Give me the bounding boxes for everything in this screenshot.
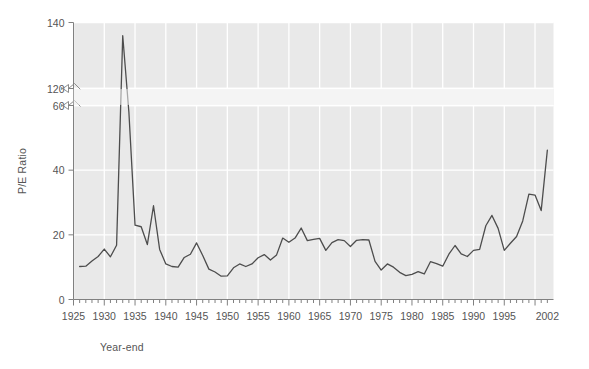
y-tick-label: 40 — [53, 164, 65, 176]
x-axis-title: Year-end — [100, 341, 144, 353]
x-tick-label: 1945 — [185, 310, 209, 322]
x-tick-label: 1950 — [216, 310, 240, 322]
plot-background — [74, 23, 554, 300]
x-tick-label: 1990 — [462, 310, 486, 322]
x-tick-label: 1985 — [431, 310, 455, 322]
chart-svg: 0204060120140192519301935194019451950195… — [0, 0, 589, 369]
x-tick-label: 1955 — [246, 310, 270, 322]
x-tick-label: 1960 — [277, 310, 301, 322]
y-tick-label: 140 — [47, 17, 65, 29]
x-tick-label: 1980 — [400, 310, 424, 322]
x-tick-label: 1995 — [493, 310, 517, 322]
x-tick-label: 1940 — [154, 310, 178, 322]
y-tick-label: 0 — [59, 294, 65, 306]
x-tick-label: 1975 — [370, 310, 394, 322]
x-tick-label: 1925 — [62, 310, 86, 322]
x-tick-label: 1965 — [308, 310, 332, 322]
x-tick-label: 2002 — [536, 310, 560, 322]
chart-figure: 0204060120140192519301935194019451950195… — [0, 0, 589, 369]
x-tick-label: 1930 — [93, 310, 117, 322]
y-tick-label: 120 — [47, 83, 65, 95]
x-tick-label: 1935 — [123, 310, 147, 322]
x-tick-label: 1970 — [339, 310, 363, 322]
y-tick-label: 20 — [53, 229, 65, 241]
y-axis-title: P/E Ratio — [16, 131, 28, 211]
axis-break-overlay — [74, 89, 554, 105]
